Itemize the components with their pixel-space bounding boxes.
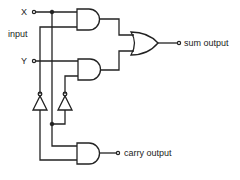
circuit-diagram <box>0 0 240 180</box>
and-gate-1 <box>77 9 100 30</box>
not-gate-2 <box>58 96 72 110</box>
not-gate-1 <box>33 96 47 110</box>
wire-notx-and2 <box>65 76 78 94</box>
label-sum-output: sum output <box>184 38 229 48</box>
junction-x-lower <box>50 122 54 126</box>
terminal-x <box>32 10 35 13</box>
or-gate <box>131 32 158 55</box>
label-x: X <box>21 7 27 17</box>
label-input: input <box>8 29 28 39</box>
label-y: Y <box>21 56 27 66</box>
label-carry-output: carry output <box>124 148 172 158</box>
wire-y-and3 <box>40 110 77 160</box>
terminal-sum <box>177 41 180 44</box>
junction-x <box>50 10 54 14</box>
wire-and2-or <box>100 51 134 70</box>
terminal-y <box>32 59 35 62</box>
and-gate-3 <box>77 143 100 164</box>
terminal-carry <box>116 151 119 154</box>
wire-x-notx <box>52 110 65 124</box>
and-gate-2 <box>78 59 101 80</box>
wire-and1-or <box>99 19 134 35</box>
